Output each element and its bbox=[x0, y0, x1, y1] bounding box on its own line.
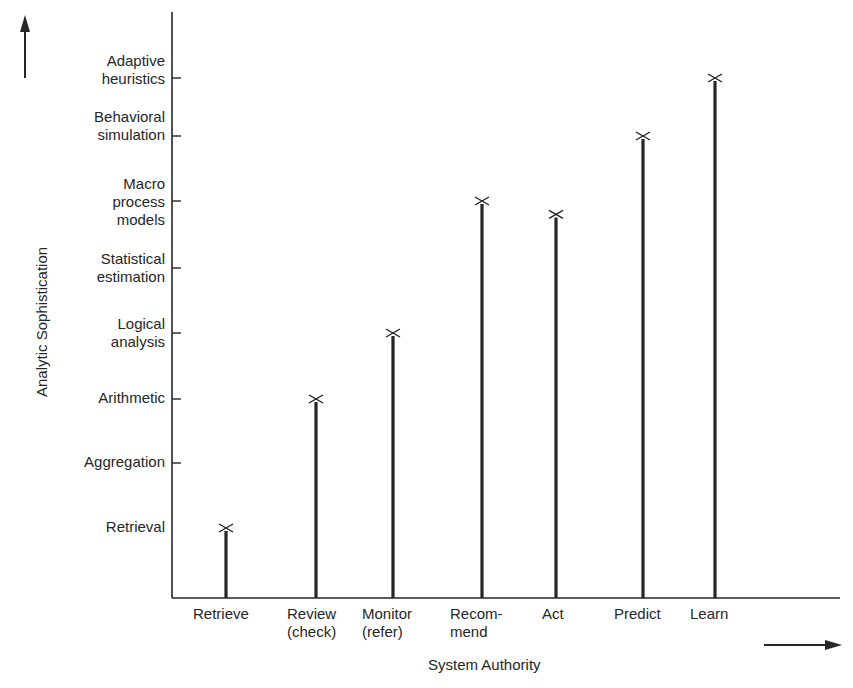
x-marker-icon bbox=[475, 197, 489, 205]
x-marker-icon bbox=[636, 132, 650, 140]
x-tick-label: Review (check) bbox=[287, 605, 336, 641]
x-marker-icon bbox=[708, 74, 722, 82]
x-marker-icon bbox=[549, 210, 563, 218]
x-marker-icon bbox=[386, 329, 400, 337]
up-arrowhead-icon bbox=[20, 15, 30, 32]
x-marker-icon bbox=[309, 395, 323, 403]
y-tick-label: Aggregation bbox=[84, 453, 165, 471]
y-tick-label: Macro process models bbox=[112, 175, 165, 229]
y-axis-title: Analytic Sophistication bbox=[33, 247, 50, 397]
right-arrowhead-icon bbox=[825, 640, 842, 650]
y-tick-label: Arithmetic bbox=[98, 389, 165, 407]
y-tick-label: Retrieval bbox=[106, 518, 165, 536]
x-tick-label: Monitor (refer) bbox=[362, 605, 412, 641]
y-tick-label: Adaptive heuristics bbox=[102, 52, 165, 88]
x-tick-label: Retrieve bbox=[193, 605, 249, 623]
x-axis-title: System Authority bbox=[428, 656, 541, 673]
x-tick-label: Act bbox=[542, 605, 564, 623]
x-tick-label: Learn bbox=[690, 605, 728, 623]
x-tick-label: Recom- mend bbox=[450, 605, 503, 641]
y-tick-label: Logical analysis bbox=[111, 315, 165, 351]
x-marker-icon bbox=[219, 524, 233, 532]
y-tick-label: Statistical estimation bbox=[97, 250, 165, 286]
x-tick-label: Predict bbox=[614, 605, 661, 623]
y-tick-label: Behavioral simulation bbox=[94, 108, 165, 144]
